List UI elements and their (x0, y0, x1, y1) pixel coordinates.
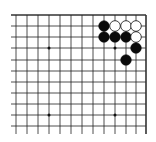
star-point (48, 114, 51, 117)
stones (99, 21, 142, 66)
white-stone[interactable] (110, 21, 121, 32)
go-board[interactable] (0, 0, 156, 142)
white-stone[interactable] (131, 21, 142, 32)
black-stone[interactable] (121, 32, 132, 43)
star-point (114, 114, 117, 117)
black-stone[interactable] (121, 55, 132, 66)
black-stone[interactable] (99, 21, 110, 32)
black-stone[interactable] (110, 32, 121, 43)
star-point (48, 47, 51, 50)
white-stone[interactable] (131, 32, 142, 43)
star-point (114, 47, 117, 50)
black-stone[interactable] (99, 32, 110, 43)
white-stone[interactable] (121, 21, 132, 32)
black-stone[interactable] (131, 43, 142, 54)
